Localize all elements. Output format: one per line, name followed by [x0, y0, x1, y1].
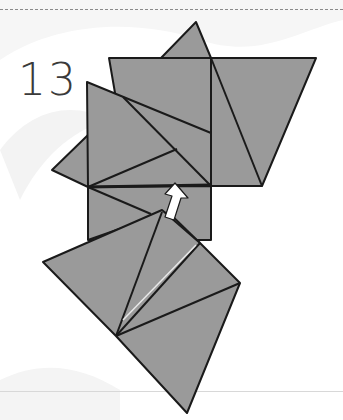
left-point-flap: [52, 135, 88, 187]
top-point-flap: [161, 22, 211, 58]
origami-diagram: [0, 0, 343, 420]
right-triangle-flap: [211, 58, 316, 186]
